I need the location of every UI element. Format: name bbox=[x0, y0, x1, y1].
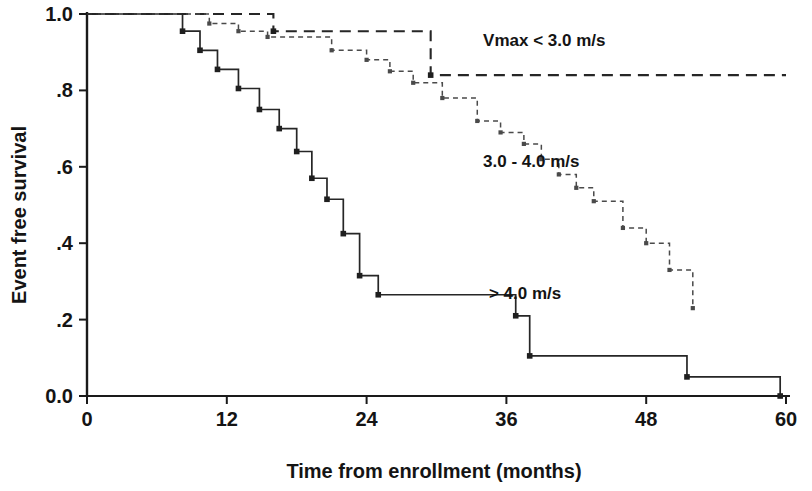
series-label-0: Vmax < 3.0 m/s bbox=[483, 31, 605, 50]
censor-mark-1-4 bbox=[365, 58, 369, 62]
y-tick-label: .2 bbox=[56, 309, 73, 331]
censor-mark-0-1 bbox=[428, 72, 434, 78]
censor-mark-0-0 bbox=[271, 28, 277, 34]
axes bbox=[87, 12, 790, 396]
x-tick-label: 60 bbox=[775, 408, 797, 430]
x-tick-label: 0 bbox=[81, 408, 92, 430]
censor-mark-1-12 bbox=[557, 172, 561, 176]
censor-mark-1-10 bbox=[522, 142, 526, 146]
censor-mark-1-2 bbox=[265, 35, 269, 39]
censor-mark-2-4 bbox=[257, 107, 263, 113]
censor-mark-2-10 bbox=[357, 273, 363, 279]
censor-mark-1-8 bbox=[475, 119, 479, 123]
series-label-2: > 4.0 m/s bbox=[489, 284, 561, 303]
x-axis-ticks: 01224364860 bbox=[81, 396, 797, 430]
y-tick-label: 1.0 bbox=[45, 3, 73, 25]
censor-mark-1-3 bbox=[330, 48, 334, 52]
censor-mark-1-9 bbox=[498, 130, 502, 134]
x-tick-label: 12 bbox=[216, 408, 238, 430]
censor-mark-2-15 bbox=[777, 393, 783, 399]
censor-mark-1-6 bbox=[411, 81, 415, 85]
series-line-0 bbox=[87, 14, 786, 75]
censor-mark-1-14 bbox=[592, 199, 596, 203]
x-tick-label: 24 bbox=[355, 408, 378, 430]
censor-mark-2-1 bbox=[197, 47, 203, 53]
y-axis-ticks: 0.0.2.4.6.81.0 bbox=[45, 3, 87, 407]
chart-canvas: 0.0.2.4.6.81.0 01224364860 Vmax < 3.0 m/… bbox=[0, 0, 812, 491]
censor-mark-1-18 bbox=[691, 306, 695, 310]
censor-mark-2-6 bbox=[294, 149, 300, 155]
series-curves bbox=[87, 14, 786, 396]
y-tick-label: .6 bbox=[56, 156, 73, 178]
censor-mark-2-11 bbox=[375, 292, 381, 298]
censor-mark-2-14 bbox=[684, 374, 690, 380]
x-tick-label: 48 bbox=[635, 408, 657, 430]
censor-mark-2-7 bbox=[309, 175, 315, 181]
censor-mark-1-13 bbox=[574, 186, 578, 190]
y-tick-label: .8 bbox=[56, 79, 73, 101]
series-annotations: Vmax < 3.0 m/s3.0 - 4.0 m/s> 4.0 m/s bbox=[483, 31, 605, 302]
censor-mark-1-16 bbox=[644, 241, 648, 245]
censor-mark-1-15 bbox=[621, 226, 625, 230]
censor-mark-2-9 bbox=[341, 231, 347, 237]
censor-mark-1-1 bbox=[236, 29, 240, 33]
censor-mark-2-12 bbox=[513, 313, 519, 319]
y-tick-label: 0.0 bbox=[45, 385, 73, 407]
censor-mark-2-3 bbox=[236, 86, 242, 92]
censor-mark-1-17 bbox=[667, 268, 671, 272]
censor-marks bbox=[180, 21, 783, 398]
x-tick-label: 36 bbox=[495, 408, 517, 430]
censor-mark-2-5 bbox=[276, 126, 282, 132]
series-label-1: 3.0 - 4.0 m/s bbox=[483, 152, 579, 171]
y-axis-title: Event free survival bbox=[8, 126, 30, 304]
x-axis-title: Time from enrollment (months) bbox=[286, 460, 581, 482]
series-line-1 bbox=[87, 14, 693, 308]
survival-chart-figure: 0.0.2.4.6.81.0 01224364860 Vmax < 3.0 m/… bbox=[0, 0, 812, 491]
censor-mark-2-0 bbox=[180, 28, 186, 34]
censor-mark-2-13 bbox=[527, 353, 533, 359]
censor-mark-1-7 bbox=[440, 96, 444, 100]
series-line-2 bbox=[87, 14, 780, 396]
y-tick-label: .4 bbox=[56, 232, 74, 254]
censor-mark-1-0 bbox=[207, 21, 211, 25]
censor-mark-2-8 bbox=[324, 196, 330, 202]
censor-mark-2-2 bbox=[215, 67, 221, 73]
censor-mark-1-5 bbox=[388, 69, 392, 73]
